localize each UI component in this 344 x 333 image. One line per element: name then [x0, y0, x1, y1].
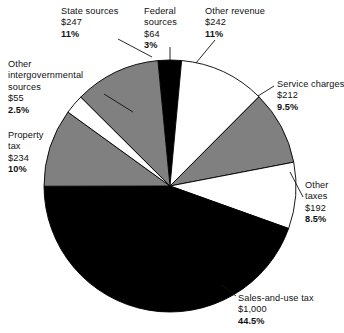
slice-label-property-tax: Property tax $234 10%	[8, 130, 44, 176]
slice-label-other-intergovernmental-value: $55	[8, 93, 104, 104]
leader-line-otherrev	[196, 40, 215, 63]
slice-label-other-revenue-percent: 11%	[205, 29, 265, 40]
slice-label-other-taxes-value: $192	[305, 203, 328, 214]
slice-label-federal: Federal sources $64 3%	[144, 6, 177, 52]
slice-label-state-percent: 11%	[61, 29, 118, 40]
slice-label-other-taxes-name-line2: taxes	[305, 191, 328, 202]
slice-label-state-value: $247	[61, 17, 118, 28]
slice-label-other-taxes-name-line1: Other	[305, 180, 328, 191]
slice-label-sales-and-use-tax-value: $1,000	[238, 304, 314, 315]
slice-label-service-charges-name: Service charges	[277, 79, 344, 90]
slice-label-property-tax-percent: 10%	[8, 164, 44, 175]
slice-label-sales-and-use-tax-percent: 44.5%	[238, 316, 314, 327]
slice-label-other-intergovernmental-percent: 2.5%	[8, 105, 104, 116]
slice-label-property-tax-value: $234	[8, 153, 44, 164]
slice-label-federal-percent: 3%	[144, 40, 177, 51]
slice-label-other-taxes-percent: 8.5%	[305, 214, 328, 225]
slice-label-other-revenue-name: Other revenue	[205, 6, 265, 17]
slice-label-other-intergovernmental: Other intergovernmental sources $55 2.5%	[8, 59, 104, 116]
slice-label-service-charges-percent: 9.5%	[277, 102, 344, 113]
slice-label-state: State sources $247 11%	[61, 6, 118, 40]
slice-label-federal-value: $64	[144, 29, 177, 40]
slice-label-other-revenue-value: $242	[205, 17, 265, 28]
slice-label-property-tax-name-line2: tax	[8, 141, 44, 152]
slice-label-service-charges-value: $212	[277, 90, 344, 101]
slice-label-other-revenue: Other revenue $242 11%	[205, 6, 265, 40]
slice-label-federal-name-line2: sources	[144, 17, 177, 28]
slice-label-other-intergovernmental-name: Other intergovernmental sources	[8, 59, 104, 93]
leader-line-service	[258, 86, 274, 96]
slice-label-other-taxes: Other taxes $192 8.5%	[305, 180, 328, 226]
slice-label-service-charges: Service charges $212 9.5%	[277, 79, 344, 113]
slice-label-state-name: State sources	[61, 6, 118, 17]
slice-label-sales-and-use-tax-name: Sales-and-use tax	[238, 293, 314, 304]
slice-label-federal-name-line1: Federal	[144, 6, 177, 17]
slice-label-property-tax-name-line1: Property	[8, 130, 44, 141]
slice-label-sales-and-use-tax: Sales-and-use tax $1,000 44.5%	[238, 293, 314, 327]
